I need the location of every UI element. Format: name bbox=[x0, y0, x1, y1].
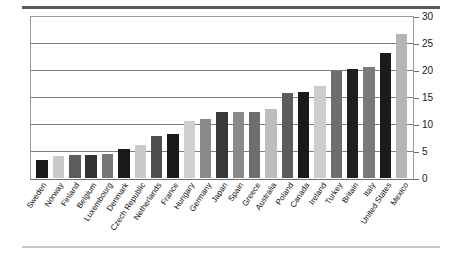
y-axis-tick bbox=[414, 98, 419, 99]
y-axis: 051015202530 bbox=[414, 16, 460, 182]
y-axis-tick-label: 5 bbox=[422, 147, 428, 157]
bar-slot bbox=[99, 18, 115, 178]
bar-slot bbox=[328, 18, 344, 178]
bar-slot bbox=[263, 18, 279, 178]
bar[interactable] bbox=[167, 134, 178, 178]
bar-slot bbox=[230, 18, 246, 178]
y-axis-tick-label: 0 bbox=[422, 174, 428, 184]
bar-slot bbox=[296, 18, 312, 178]
bar[interactable] bbox=[102, 154, 113, 178]
bar[interactable] bbox=[298, 92, 309, 178]
y-axis-tick-label: 20 bbox=[422, 66, 433, 76]
bar-slot bbox=[83, 18, 99, 178]
bar[interactable] bbox=[396, 34, 407, 178]
bar-slot bbox=[67, 18, 83, 178]
bar[interactable] bbox=[200, 119, 211, 178]
y-axis-tick bbox=[414, 152, 419, 153]
bar[interactable] bbox=[118, 149, 129, 178]
bar[interactable] bbox=[363, 67, 374, 178]
y-axis-tick bbox=[414, 44, 419, 45]
bar-slot bbox=[132, 18, 148, 178]
bar-slot bbox=[197, 18, 213, 178]
bar-slot bbox=[148, 18, 164, 178]
bar[interactable] bbox=[53, 156, 64, 178]
bar[interactable] bbox=[233, 112, 244, 178]
y-axis-tick-label: 10 bbox=[422, 120, 433, 130]
bar[interactable] bbox=[216, 112, 227, 178]
y-axis-tick-label: 25 bbox=[422, 39, 433, 49]
bar[interactable] bbox=[151, 136, 162, 178]
y-axis-tick bbox=[414, 179, 419, 180]
x-axis-category-label: Japan bbox=[210, 181, 230, 204]
bar[interactable] bbox=[184, 121, 195, 178]
plot-wrapper bbox=[30, 16, 414, 180]
bar-slot bbox=[165, 18, 181, 178]
bar[interactable] bbox=[85, 155, 96, 178]
x-axis-category-labels: SwedenNorwayFinlandBelgiumLuxembourgDenm… bbox=[30, 181, 414, 243]
bar[interactable] bbox=[347, 69, 358, 178]
bar[interactable] bbox=[69, 155, 80, 178]
bar-slot bbox=[34, 18, 50, 178]
bar-slot bbox=[214, 18, 230, 178]
y-axis-tick bbox=[414, 125, 419, 126]
y-axis-tick-label: 15 bbox=[422, 93, 433, 103]
bar[interactable] bbox=[282, 93, 293, 178]
bar[interactable] bbox=[249, 112, 260, 178]
bar-slot bbox=[116, 18, 132, 178]
bar-slot bbox=[246, 18, 262, 178]
bar[interactable] bbox=[380, 53, 391, 178]
bar[interactable] bbox=[314, 86, 325, 178]
chart-figure: 051015202530 SwedenNorwayFinlandBelgiumL… bbox=[0, 0, 461, 262]
bar[interactable] bbox=[135, 145, 146, 178]
y-axis-tick-label: 30 bbox=[422, 12, 433, 22]
bar-slot bbox=[279, 18, 295, 178]
bar[interactable] bbox=[36, 160, 47, 178]
bar-slot bbox=[181, 18, 197, 178]
y-axis-tick bbox=[414, 17, 419, 18]
plot-area bbox=[30, 16, 414, 180]
bar-slot bbox=[377, 18, 393, 178]
bar-series bbox=[32, 18, 412, 178]
bar-slot bbox=[345, 18, 361, 178]
y-axis-tick bbox=[414, 71, 419, 72]
bottom-divider-rule bbox=[22, 246, 440, 248]
bar-slot bbox=[312, 18, 328, 178]
bar-slot bbox=[394, 18, 410, 178]
bar-slot bbox=[361, 18, 377, 178]
x-axis-category-label: Britain bbox=[341, 181, 361, 205]
bar[interactable] bbox=[265, 109, 276, 178]
bar-slot bbox=[50, 18, 66, 178]
top-divider-rule bbox=[22, 6, 440, 9]
bar[interactable] bbox=[331, 71, 342, 178]
